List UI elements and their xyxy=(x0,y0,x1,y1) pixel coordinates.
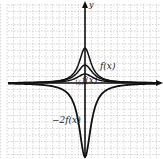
graph: y f(x) ½ f(x) −2f(x) xyxy=(0,0,163,159)
neg2f-label: −2f(x) xyxy=(52,116,81,125)
y-axis-arrow-icon xyxy=(82,1,88,8)
f-label: f(x) xyxy=(100,62,115,71)
y-axis-label: y xyxy=(89,1,94,9)
curve-neg-2f xyxy=(8,84,158,157)
half-f-label: f(x) xyxy=(82,76,97,85)
half-frac: ½ xyxy=(75,80,82,87)
